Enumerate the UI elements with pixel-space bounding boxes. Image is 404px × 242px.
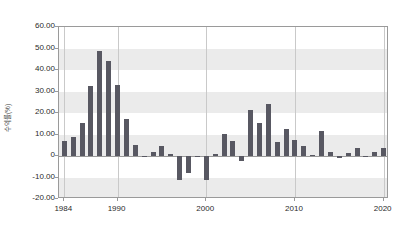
bar[interactable] <box>177 156 182 180</box>
bar[interactable] <box>239 156 244 161</box>
plot-area <box>58 26 388 198</box>
bar[interactable] <box>62 141 67 156</box>
bar[interactable] <box>186 156 191 173</box>
bar[interactable] <box>319 131 324 156</box>
y-axis-tick-mark <box>55 155 58 156</box>
bar[interactable] <box>230 141 235 156</box>
x-axis-tick-label: 2020 <box>374 204 392 213</box>
y-axis-tick-mark <box>55 177 58 178</box>
x-axis-tick-mark <box>63 198 64 201</box>
y-axis-tick-mark <box>55 26 58 27</box>
bar[interactable] <box>292 140 297 156</box>
y-axis-tick-label: -20.00 <box>3 194 55 202</box>
y-axis-tick-label: 30.00 <box>3 87 55 95</box>
y-axis-tick-label: 10.00 <box>3 130 55 138</box>
y-axis-tick-label: 50.00 <box>3 44 55 52</box>
bar[interactable] <box>142 156 147 157</box>
bar[interactable] <box>133 145 138 156</box>
bar[interactable] <box>204 156 209 180</box>
bar[interactable] <box>328 152 333 156</box>
bar[interactable] <box>346 153 351 156</box>
y-axis-tick-label: -10.00 <box>3 173 55 181</box>
y-axis-tick-mark <box>55 134 58 135</box>
y-axis-tick-mark <box>55 198 58 199</box>
bar[interactable] <box>168 154 173 156</box>
x-axis-tick-mark <box>383 198 384 201</box>
x-axis-tick-mark <box>117 198 118 201</box>
bar[interactable] <box>106 61 111 156</box>
vertical-gridline <box>384 27 385 197</box>
bar[interactable] <box>355 148 360 156</box>
bar[interactable] <box>337 156 342 158</box>
y-axis-tick-label: 0 <box>3 151 55 159</box>
bar[interactable] <box>266 104 271 156</box>
vertical-gridline <box>64 27 65 197</box>
bar[interactable] <box>213 154 218 156</box>
bar[interactable] <box>151 152 156 156</box>
bar[interactable] <box>381 148 386 156</box>
bar[interactable] <box>284 129 289 156</box>
x-axis-tick-mark <box>294 198 295 201</box>
bar[interactable] <box>80 123 85 156</box>
bar-chart-figure: 수익률(%) 60.0050.0040.0030.0020.0010.000-1… <box>0 0 404 242</box>
bar[interactable] <box>257 123 262 156</box>
y-axis-tick-labels: 60.0050.0040.0030.0020.0010.000-10.00-20… <box>0 26 55 198</box>
bar[interactable] <box>372 152 377 156</box>
bar[interactable] <box>248 110 253 156</box>
bar[interactable] <box>301 146 306 156</box>
bar[interactable] <box>275 142 280 156</box>
bar[interactable] <box>195 156 200 157</box>
x-axis-tick-label: 2000 <box>196 204 214 213</box>
x-axis-tick-label: 2010 <box>285 204 303 213</box>
bar[interactable] <box>159 146 164 156</box>
bar[interactable] <box>363 156 368 157</box>
y-axis-tick-mark <box>55 112 58 113</box>
y-axis-tick-label: 60.00 <box>3 22 55 30</box>
x-axis-tick-labels: 19841990200020102020 <box>58 198 388 220</box>
bar[interactable] <box>71 137 76 156</box>
x-axis-tick-mark <box>205 198 206 201</box>
y-axis-tick-label: 40.00 <box>3 65 55 73</box>
background-band <box>59 178 387 199</box>
x-axis-tick-label: 1984 <box>54 204 72 213</box>
y-axis-tick-label: 20.00 <box>3 108 55 116</box>
y-axis-tick-mark <box>55 91 58 92</box>
vertical-gridline <box>295 27 296 197</box>
bar[interactable] <box>115 85 120 156</box>
bar[interactable] <box>124 119 129 156</box>
bar[interactable] <box>97 51 102 156</box>
x-axis-tick-label: 1990 <box>108 204 126 213</box>
y-axis-tick-mark <box>55 48 58 49</box>
bar[interactable] <box>222 134 227 156</box>
bar[interactable] <box>310 155 315 156</box>
bar[interactable] <box>88 86 93 156</box>
y-axis-tick-mark <box>55 69 58 70</box>
